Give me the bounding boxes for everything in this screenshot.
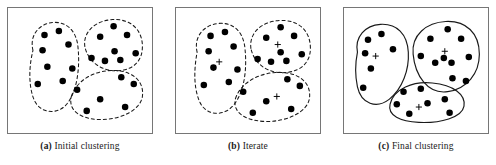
data-point bbox=[254, 56, 261, 63]
data-point bbox=[263, 35, 270, 42]
data-point bbox=[110, 23, 117, 30]
data-point bbox=[205, 48, 212, 55]
panel-c-cluster-right bbox=[413, 21, 479, 92]
data-point bbox=[97, 34, 104, 41]
data-point bbox=[378, 31, 385, 38]
data-point bbox=[368, 65, 375, 72]
centroid-marker bbox=[416, 104, 422, 110]
data-point bbox=[111, 48, 118, 55]
panel-b-frame bbox=[175, 7, 321, 134]
data-point bbox=[59, 78, 66, 85]
data-point bbox=[365, 36, 372, 43]
panel-c-caption-label: (c) bbox=[378, 141, 389, 151]
data-point bbox=[444, 26, 451, 33]
data-point bbox=[74, 86, 81, 93]
data-point bbox=[418, 86, 425, 93]
data-point bbox=[463, 78, 470, 85]
panel-a-canvas bbox=[8, 8, 152, 133]
data-point bbox=[69, 65, 76, 72]
panel-a-caption: (a) Initial clustering bbox=[40, 140, 119, 153]
panel-c-cluster-bottom bbox=[390, 83, 465, 123]
data-point bbox=[97, 96, 104, 103]
data-point bbox=[458, 36, 465, 43]
data-point bbox=[41, 32, 48, 39]
data-point bbox=[394, 101, 401, 108]
panel-c-caption: (c) Final clustering bbox=[378, 140, 453, 153]
panel-b-cluster-left bbox=[195, 23, 246, 113]
data-point bbox=[226, 79, 233, 86]
data-point bbox=[418, 53, 425, 60]
data-point bbox=[449, 75, 456, 82]
data-point bbox=[201, 82, 208, 89]
data-point bbox=[132, 50, 139, 57]
panel-b-caption-text: Iterate bbox=[243, 141, 268, 151]
panel-a-cluster-bottom-right bbox=[71, 70, 143, 119]
panel-b-canvas bbox=[176, 8, 320, 133]
panel-b: (b) Iterate bbox=[168, 0, 328, 165]
data-point bbox=[44, 63, 51, 70]
data-point bbox=[362, 50, 369, 57]
panel-b-caption-label: (b) bbox=[228, 141, 240, 151]
panel-b-cluster-bottom-right bbox=[235, 72, 310, 121]
data-point bbox=[466, 54, 473, 61]
data-point bbox=[222, 29, 229, 36]
panel-a-frame bbox=[7, 7, 153, 134]
data-point bbox=[117, 57, 124, 64]
data-point bbox=[442, 96, 449, 103]
centroid-marker bbox=[216, 59, 222, 65]
data-point bbox=[250, 110, 257, 117]
panel-c-frame bbox=[343, 7, 489, 134]
data-point bbox=[56, 28, 63, 35]
data-point bbox=[240, 88, 247, 95]
data-point bbox=[124, 32, 131, 39]
data-point bbox=[122, 104, 129, 111]
panel-b-caption: (b) Iterate bbox=[228, 140, 268, 153]
data-point bbox=[207, 33, 214, 40]
panel-a-cluster-top-right bbox=[85, 19, 143, 70]
data-point bbox=[39, 47, 46, 54]
data-point bbox=[441, 55, 448, 62]
data-point bbox=[277, 49, 284, 56]
cluster-boundary bbox=[235, 72, 310, 121]
data-point bbox=[268, 59, 275, 66]
centroid-marker bbox=[275, 41, 281, 47]
data-point bbox=[88, 55, 95, 62]
data-point bbox=[34, 81, 41, 88]
data-point bbox=[446, 110, 453, 117]
data-point bbox=[297, 83, 304, 90]
data-point bbox=[432, 60, 439, 67]
centroid-marker bbox=[373, 53, 379, 59]
data-point bbox=[427, 36, 434, 43]
data-point bbox=[234, 66, 241, 73]
data-point bbox=[406, 111, 413, 118]
data-point bbox=[210, 64, 217, 71]
panel-a-caption-text: Initial clustering bbox=[54, 141, 119, 151]
data-point bbox=[130, 81, 137, 88]
data-point bbox=[424, 100, 431, 107]
cluster-boundary bbox=[71, 70, 143, 119]
panel-c-canvas bbox=[344, 8, 488, 133]
data-point bbox=[390, 46, 397, 53]
centroid-marker bbox=[442, 48, 448, 54]
panel-c-caption-text: Final clustering bbox=[392, 141, 454, 151]
panel-b-cluster-top-right bbox=[251, 20, 311, 72]
data-point bbox=[65, 41, 72, 48]
data-point bbox=[400, 88, 407, 95]
kmeans-figure: (a) Initial clustering(b) Iterate(c) Fin… bbox=[0, 0, 496, 165]
data-point bbox=[360, 85, 367, 92]
data-point bbox=[283, 58, 290, 65]
data-point bbox=[291, 33, 298, 40]
panel-c: (c) Final clustering bbox=[336, 0, 496, 165]
data-point bbox=[288, 106, 295, 113]
data-point bbox=[118, 74, 125, 81]
data-point bbox=[102, 58, 109, 65]
panel-a: (a) Initial clustering bbox=[0, 0, 160, 165]
data-point bbox=[230, 43, 237, 50]
data-point bbox=[284, 76, 291, 83]
panel-a-caption-label: (a) bbox=[40, 141, 52, 151]
data-point bbox=[83, 108, 90, 115]
data-point bbox=[448, 60, 455, 67]
data-point bbox=[277, 24, 284, 31]
data-point bbox=[263, 98, 270, 105]
data-point bbox=[298, 51, 305, 58]
